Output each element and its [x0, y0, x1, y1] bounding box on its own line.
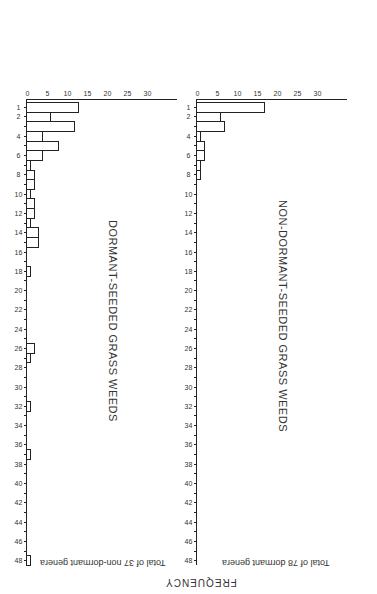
- y-tick-label: 15: [253, 90, 263, 97]
- x-tick-label: 14: [13, 229, 25, 236]
- x-tick-label: 2: [13, 113, 25, 120]
- rotated-figure: NON-DORMANT-SEEDED GRASS WEEDS 051015202…: [0, 0, 377, 594]
- y-tick-label: 25: [123, 90, 133, 97]
- x-tick: [24, 415, 27, 416]
- y-tick-label: 5: [43, 90, 53, 97]
- x-tick: [24, 396, 27, 397]
- y-tick-label: 20: [103, 90, 113, 97]
- x-tick: [24, 551, 27, 552]
- x-tick-label: 26: [13, 344, 25, 351]
- y-axis-label-non-dormant: Total of 37 non-dormant genera: [40, 558, 166, 568]
- y-axis-line: [197, 99, 347, 100]
- x-tick-label: 4: [13, 132, 25, 139]
- x-tick-label: 16: [13, 248, 25, 255]
- x-tick-label: 36: [13, 441, 25, 448]
- x-tick-label: 48: [13, 557, 25, 564]
- y-tick-label: 10: [233, 90, 243, 97]
- x-tick-label: 28: [13, 364, 25, 371]
- chart-title: DORMANT-SEEDED GRASS WEEDS: [107, 220, 119, 422]
- x-tick-label: 42: [13, 499, 25, 506]
- x-tick-label: 44: [13, 518, 25, 525]
- y-tick-label: 15: [83, 90, 93, 97]
- histogram-bar: [26, 555, 31, 566]
- y-axis-line: [27, 99, 177, 100]
- x-tick-label: 30: [13, 383, 25, 390]
- x-tick: [24, 493, 27, 494]
- x-tick: [24, 473, 27, 474]
- y-tick-label: 30: [313, 90, 323, 97]
- non-dormant-histogram: NON-DORMANT-SEEDED GRASS WEEDS 051015202…: [187, 0, 377, 594]
- y-tick-label: 30: [143, 90, 153, 97]
- x-tick: [24, 435, 27, 436]
- x-tick-label: 38: [13, 460, 25, 467]
- x-tick-label: 6: [13, 152, 25, 159]
- x-tick-label: 22: [13, 306, 25, 313]
- x-tick-label: 12: [13, 209, 25, 216]
- y-tick-label: 5: [213, 90, 223, 97]
- x-tick: [24, 261, 27, 262]
- x-tick-label: 18: [13, 267, 25, 274]
- histogram-bar: [26, 266, 31, 277]
- x-tick-label: 40: [13, 480, 25, 487]
- x-tick-label: 20: [13, 287, 25, 294]
- x-tick: [24, 319, 27, 320]
- x-tick-label: 46: [13, 537, 25, 544]
- histogram-bar: [26, 401, 31, 412]
- x-tick: [24, 377, 27, 378]
- x-tick: [24, 300, 27, 301]
- frequency-axis-label: FREQUENCY: [165, 577, 237, 588]
- histogram-bar: [26, 353, 31, 364]
- x-tick-label: 24: [13, 325, 25, 332]
- x-tick-label: 10: [13, 190, 25, 197]
- y-axis-label-dormant: Total of 78 dormant genera: [222, 558, 330, 568]
- x-tick: [24, 512, 27, 513]
- y-tick-label: 20: [273, 90, 283, 97]
- dormant-histogram: DORMANT-SEEDED GRASS WEEDS 0510152025301…: [17, 0, 207, 594]
- x-tick-label: 1: [13, 103, 25, 110]
- histogram-bar: [26, 449, 31, 460]
- x-tick-label: 32: [13, 402, 25, 409]
- histogram-bar: [26, 237, 39, 248]
- x-tick: [24, 531, 27, 532]
- x-tick-label: 34: [13, 422, 25, 429]
- y-tick-label: 0: [23, 90, 33, 97]
- y-tick-label: 25: [293, 90, 303, 97]
- x-tick: [24, 338, 27, 339]
- x-tick-label: 8: [13, 171, 25, 178]
- x-tick: [24, 280, 27, 281]
- y-tick-label: 10: [63, 90, 73, 97]
- chart-title: NON-DORMANT-SEEDED GRASS WEEDS: [277, 200, 289, 432]
